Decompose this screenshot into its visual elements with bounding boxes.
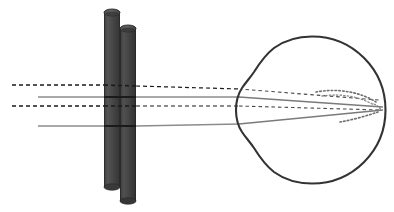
optics-ray-diagram [0, 0, 394, 212]
rod-left-bottom-cap [104, 184, 120, 190]
ray-solid-lower-refracted [239, 110, 383, 124]
ray-dashed-upper-mid [136, 86, 240, 89]
incoming-rays-group [12, 85, 104, 126]
rod-right-body [120, 28, 136, 201]
rod-right [120, 25, 136, 204]
rod-left-body [104, 12, 120, 187]
rod-right-bottom-cap [120, 198, 136, 204]
ray-solid-upper-refracted [239, 97, 383, 107]
rod-right-top-cap-inner [122, 27, 134, 31]
rod-left-top-cap-inner [106, 11, 118, 15]
mid-rays-group [136, 86, 240, 126]
ray-solid-lower-mid [136, 124, 240, 126]
ray-dashed-lower-refracted [239, 106, 380, 110]
rod-left [104, 9, 120, 190]
figure-canvas [0, 0, 394, 212]
refracted-rays-group [239, 89, 383, 124]
